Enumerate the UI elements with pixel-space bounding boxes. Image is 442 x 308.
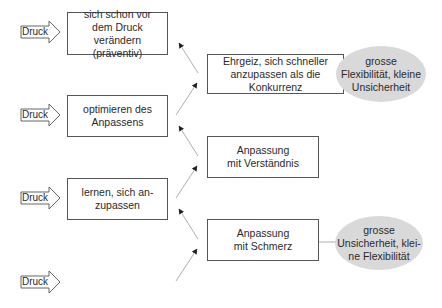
arrow-to-lernen (179, 209, 198, 239)
box-schmerz: Anpassung mit Schmerz (207, 219, 319, 261)
pressure-label: Druck (21, 275, 49, 289)
box-praeventiv: sich schon vor dem Druck verändern (präv… (67, 12, 168, 55)
pressure-arrow-2: Druck (20, 103, 62, 127)
pressure-arrow-1: Druck (20, 20, 62, 44)
box-ehrgeiz: Ehrgeiz, sich schneller anzupassen als d… (207, 54, 344, 94)
box-verstaendnis: Anpassung mit Verständnis (207, 136, 319, 178)
arrow-to-schmerz (176, 249, 197, 281)
arrow-to-verstaendnis (176, 166, 197, 198)
ellipse-high-flexibility: grosse Flexibilität, kleine Unsicherheit (336, 46, 426, 102)
pressure-label: Druck (21, 191, 49, 205)
pressure-arrow-4: Druck (20, 270, 62, 294)
pressure-label: Druck (21, 25, 49, 39)
arrow-to-ehrgeiz (176, 83, 197, 115)
arrow-to-optimieren (179, 126, 198, 156)
pressure-label: Druck (21, 108, 49, 122)
box-optimieren: optimieren des Anpassens (67, 95, 168, 137)
arrow-to-praeventiv (179, 43, 198, 73)
pressure-arrow-3: Druck (20, 186, 62, 210)
ellipse-high-uncertainty: grosse Unsicherheit, klei- ne Flexibilit… (335, 216, 423, 270)
box-lernen: lernen, sich an- zupassen (67, 178, 168, 220)
